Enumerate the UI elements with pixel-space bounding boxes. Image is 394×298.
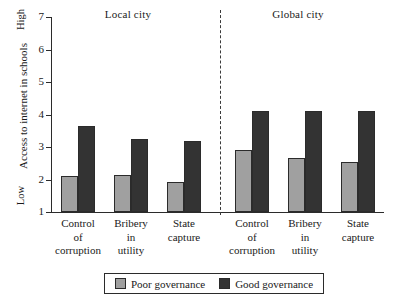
bar-global-3-good (252, 111, 269, 212)
bar-global-4-good (305, 111, 322, 212)
bar-local-2-poor (167, 182, 184, 212)
y-tick-label-6: 6 (26, 43, 44, 55)
legend-label: Good governance (235, 278, 313, 290)
bar-chart-figure: Local city Global city Access to interne… (0, 0, 394, 298)
legend: Poor governanceGood governance (104, 273, 324, 294)
bar-global-5-poor (341, 162, 358, 212)
y-axis-high-label: High (15, 3, 26, 37)
x-label-5: Statecapture (320, 217, 394, 244)
legend-swatch-icon (219, 278, 230, 289)
y-tick-label-3: 3 (26, 140, 44, 152)
bar-local-2-good (184, 141, 201, 213)
y-axis-low-label: Low (15, 179, 26, 213)
bar-local-1-good (131, 139, 148, 212)
x-label-2: Statecapture (146, 217, 222, 244)
legend-entry-good-governance: Good governance (219, 278, 313, 290)
legend-swatch-icon (115, 278, 126, 289)
bar-local-0-good (78, 126, 95, 212)
bar-global-3-poor (235, 150, 252, 212)
y-tick-label-1: 1 (26, 205, 44, 217)
y-tick-1 (46, 212, 52, 213)
legend-entry-poor-governance: Poor governance (115, 278, 205, 290)
y-tick-label-2: 2 (26, 173, 44, 185)
legend-label: Poor governance (131, 278, 205, 290)
bar-local-1-poor (114, 175, 131, 212)
bar-global-5-good (358, 111, 375, 212)
y-tick-label-7: 7 (26, 10, 44, 22)
plot-area (52, 17, 384, 212)
x-axis-line (51, 212, 384, 213)
bar-global-4-poor (288, 158, 305, 212)
bar-local-0-poor (61, 176, 78, 212)
y-tick-label-4: 4 (26, 108, 44, 120)
y-tick-label-5: 5 (26, 75, 44, 87)
